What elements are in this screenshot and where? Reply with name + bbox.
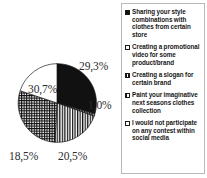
legend-swatch-cross-hatch-icon — [125, 93, 130, 98]
legend-item-4: I would not participate on any contest w… — [125, 119, 202, 142]
legend-swatch-white-icon — [125, 121, 130, 126]
pie-chart-figure: 29,3% 1,0% 20,5% 18,5% 30,7% Sharing you… — [0, 0, 207, 178]
pie-value-label-0: 29,3% — [79, 60, 108, 72]
chart-legend: Sharing your style combinations with clo… — [121, 3, 205, 174]
legend-item-1: Creating a promotional video for some pr… — [125, 43, 202, 66]
pie-plot-area: 29,3% 1,0% 20,5% 18,5% 30,7% — [0, 0, 121, 178]
legend-swatch-dense-black-icon — [125, 45, 130, 50]
pie-value-label-3: 18,5% — [9, 150, 38, 162]
legend-item-2: Creating a slogan for certain brand — [125, 71, 202, 86]
legend-swatch-solid-black-icon — [125, 10, 130, 15]
legend-label-3: Paint your imaginative next seasons clot… — [132, 91, 202, 114]
legend-item-3: Paint your imaginative next seasons clot… — [125, 91, 202, 114]
pie-value-label-2: 20,5% — [58, 150, 87, 162]
pie-svg — [16, 62, 98, 144]
legend-item-0: Sharing your style combinations with clo… — [125, 8, 202, 38]
legend-label-0: Sharing your style combinations with clo… — [132, 8, 202, 38]
pie-value-label-1: 1,0% — [88, 99, 112, 111]
pie-value-label-4: 30,7% — [28, 83, 57, 95]
legend-label-1: Creating a promotional video for some pr… — [132, 43, 202, 66]
legend-label-2: Creating a slogan for certain brand — [132, 71, 202, 86]
legend-swatch-vertical-stripes-icon — [125, 73, 130, 78]
legend-label-4: I would not participate on any contest w… — [132, 119, 202, 142]
